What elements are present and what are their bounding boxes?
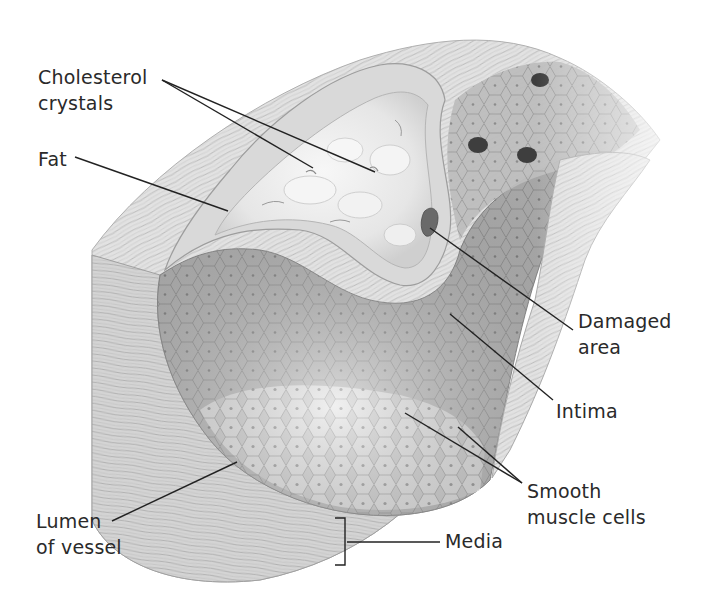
label-cholesterol-crystals: Cholesterol crystals	[38, 64, 147, 116]
label-line: Intima	[556, 398, 618, 424]
label-line: Media	[445, 528, 503, 554]
label-intima: Intima	[556, 398, 618, 424]
label-line: Smooth	[527, 478, 646, 504]
label-line: crystals	[38, 90, 147, 116]
label-line: Damaged	[578, 308, 672, 334]
label-line: muscle cells	[527, 504, 646, 530]
label-line: of vessel	[36, 534, 122, 560]
label-line: Fat	[38, 146, 67, 172]
label-line: area	[578, 334, 672, 360]
label-lumen-of-vessel: Lumen of vessel	[36, 508, 122, 560]
label-fat: Fat	[38, 146, 67, 172]
label-media: Media	[445, 528, 503, 554]
label-line: Cholesterol	[38, 64, 147, 90]
label-damaged-area: Damaged area	[578, 308, 672, 360]
artery-diagram: Cholesterol crystals Fat Damaged area In…	[0, 0, 714, 616]
label-smooth-muscle-cells: Smooth muscle cells	[527, 478, 646, 530]
label-line: Lumen	[36, 508, 122, 534]
